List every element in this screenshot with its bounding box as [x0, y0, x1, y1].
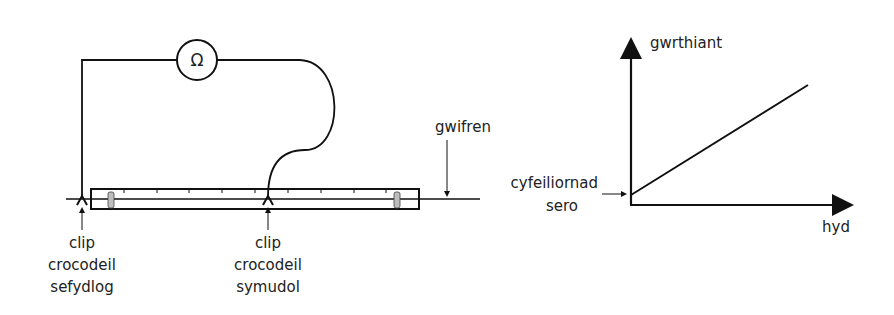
- right-peg: [394, 192, 400, 208]
- fixed-clip-label-3: sefydlog: [50, 278, 113, 296]
- fixed-clip-icon: [77, 196, 87, 205]
- intercept-label-1: cyfeiliornad: [511, 174, 598, 192]
- moving-lead: [217, 60, 334, 197]
- resistance-length-graph: gwrthiant hyd cyfeiliornad sero: [511, 34, 850, 236]
- wire-label: gwifren: [435, 118, 491, 136]
- moving-clip-label-3: symudol: [236, 278, 300, 296]
- intercept-label-2: sero: [546, 197, 578, 215]
- ohmmeter: Ω: [177, 40, 217, 80]
- data-line: [631, 85, 808, 195]
- x-axis-label: hyd: [822, 218, 850, 236]
- fixed-clip-label-2: crocodeil: [48, 256, 116, 274]
- fixed-clip-label-1: clip: [69, 234, 95, 252]
- moving-clip-label-2: crocodeil: [234, 256, 302, 274]
- moving-clip-icon: [263, 196, 273, 205]
- y-axis-label: gwrthiant: [650, 34, 722, 52]
- circuit-diagram: Ω gwifren clip crocodeil sefydlog clip c…: [48, 40, 491, 296]
- ohm-symbol-icon: Ω: [191, 50, 204, 70]
- moving-clip-label-1: clip: [255, 234, 281, 252]
- diagram-canvas: Ω gwifren clip crocodeil sefydlog clip c…: [0, 0, 894, 315]
- left-peg: [108, 192, 114, 208]
- fixed-lead: [82, 60, 177, 197]
